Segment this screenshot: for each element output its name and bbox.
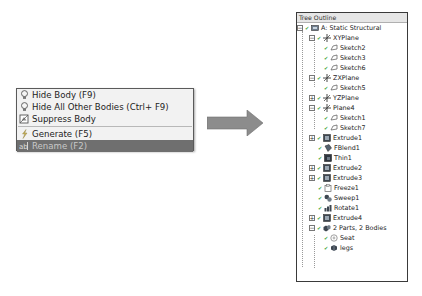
thin-icon — [324, 154, 332, 162]
tree-node-sketch2[interactable]: ✔ Sketch2 — [324, 43, 366, 53]
tree-node-label: Sketch2 — [340, 44, 366, 52]
suppress-body-icon — [19, 114, 29, 124]
tree-node-legs[interactable]: ✔ legs — [324, 243, 353, 253]
rotate-icon — [324, 204, 332, 212]
lightbulb-icon — [19, 90, 29, 100]
tree-node-label: XYPlane — [333, 34, 359, 42]
tree-node-label: Sketch7 — [340, 124, 366, 132]
menu-item-rename[interactable]: ab Rename (F2) — [17, 140, 193, 152]
check-icon: ✔ — [317, 135, 322, 141]
sketch-icon — [330, 44, 338, 52]
extrude-icon — [323, 164, 331, 172]
tree-node-label: FBlend1 — [334, 144, 360, 152]
menu-item-generate[interactable]: Generate (F5) — [17, 128, 193, 140]
tree-connector — [314, 235, 315, 268]
tree-node-seat[interactable]: ✔ Seat — [324, 233, 354, 243]
check-icon: ✔ — [318, 145, 323, 151]
check-icon: ✔ — [317, 95, 322, 101]
check-icon: ✔ — [305, 25, 310, 31]
tree-node-fblend1[interactable]: ✔ FBlend1 — [318, 143, 360, 153]
freeze-icon — [324, 184, 332, 192]
tree-node-zxplane[interactable]: − ✔ ZXPlane — [309, 73, 359, 83]
tree-node-sketch5[interactable]: ✔ Sketch5 — [324, 83, 366, 93]
tree-node-parts-bodies[interactable]: − ✔ 2 Parts, 2 Bodies — [309, 223, 387, 233]
model-icon — [311, 24, 319, 32]
tree-node-label: Plane4 — [333, 104, 355, 112]
tree-node-label: legs — [340, 244, 353, 252]
check-icon: ✔ — [324, 85, 329, 91]
check-icon: ✔ — [317, 175, 322, 181]
tree-node-label: Extrude3 — [333, 174, 362, 182]
expand-icon[interactable]: + — [309, 95, 315, 101]
expand-icon[interactable]: + — [309, 175, 315, 181]
tree-node-extrude1[interactable]: + ✔ Extrude1 — [309, 133, 362, 143]
tree-node-label: Seat — [340, 234, 354, 242]
extrude-icon — [323, 174, 331, 182]
body-icon — [330, 234, 338, 242]
tree-node-sketch7[interactable]: ✔ Sketch7 — [324, 123, 366, 133]
collapse-icon[interactable]: − — [309, 225, 315, 231]
tree-node-sketch6[interactable]: ✔ Sketch6 — [324, 63, 366, 73]
tree-node-extrude3[interactable]: + ✔ Extrude3 — [309, 173, 362, 183]
rename-icon: ab — [19, 141, 29, 151]
collapse-icon[interactable]: − — [309, 105, 315, 111]
tree-node-thin1[interactable]: ✔ Thin1 — [318, 153, 352, 163]
expand-icon[interactable]: + — [309, 215, 315, 221]
tree-outline-title: Tree Outline — [297, 13, 407, 23]
extrude-icon — [323, 214, 331, 222]
menu-item-suppress-body[interactable]: Suppress Body — [17, 113, 193, 125]
menu-separator — [18, 126, 192, 127]
menu-item-label: Hide Body (F9) — [32, 90, 96, 100]
plane-icon — [323, 74, 331, 82]
menu-item-hide-body[interactable]: Hide Body (F9) — [17, 89, 193, 101]
tree-connector — [302, 31, 303, 267]
check-icon: ✔ — [317, 35, 322, 41]
sketch-icon — [330, 84, 338, 92]
context-menu: Hide Body (F9) Hide All Other Bodies (Ct… — [16, 88, 194, 151]
plane-icon — [323, 34, 331, 42]
check-icon: ✔ — [318, 205, 323, 211]
check-icon: ✔ — [324, 245, 329, 251]
tree-node-label: Freeze1 — [334, 184, 359, 192]
tree-node-sketch3[interactable]: ✔ Sketch3 — [324, 53, 366, 63]
menu-item-label: Generate (F5) — [32, 129, 92, 139]
tree-node-label: Extrude1 — [333, 134, 362, 142]
extrude-icon — [323, 134, 331, 142]
check-icon: ✔ — [318, 155, 323, 161]
tree-node-xyplane[interactable]: − ✔ XYPlane — [309, 33, 359, 43]
check-icon: ✔ — [317, 75, 322, 81]
menu-item-label: Suppress Body — [32, 114, 96, 124]
menu-item-hide-all-other-bodies[interactable]: Hide All Other Bodies (Ctrl+ F9) — [17, 101, 193, 113]
tree-node-rotate1[interactable]: ✔ Rotate1 — [318, 203, 359, 213]
check-icon: ✔ — [324, 65, 329, 71]
plane-icon — [323, 94, 331, 102]
tree-node-label: Sketch6 — [340, 64, 366, 72]
tree-node-yzplane[interactable]: + ✔ YZPlane — [309, 93, 359, 103]
tree-node-sketch1[interactable]: ✔ Sketch1 — [324, 113, 366, 123]
tree-node-plane4[interactable]: − ✔ Plane4 — [309, 103, 355, 113]
menu-item-label: Hide All Other Bodies (Ctrl+ F9) — [32, 102, 169, 112]
sketch-icon — [330, 114, 338, 122]
tree-node-extrude2[interactable]: + ✔ Extrude2 — [309, 163, 362, 173]
tree-node-sweep1[interactable]: ✔ Sweep1 — [318, 193, 359, 203]
expand-icon[interactable]: + — [309, 165, 315, 171]
tree-node-label: Extrude2 — [333, 164, 362, 172]
tree-node-freeze1[interactable]: ✔ Freeze1 — [318, 183, 359, 193]
tree-node-static-structural[interactable]: − ✔ A: Static Structural — [297, 23, 381, 33]
tree-node-label: A: Static Structural — [321, 24, 381, 32]
tree-node-extrude4[interactable]: + ✔ Extrude4 — [309, 213, 362, 223]
tree-node-label: Sketch1 — [340, 114, 366, 122]
tree-node-label: Rotate1 — [334, 204, 359, 212]
tree-connector — [314, 40, 315, 73]
collapse-icon[interactable]: − — [297, 25, 303, 31]
tree-node-label: Sketch3 — [340, 54, 366, 62]
expand-icon[interactable]: + — [309, 135, 315, 141]
check-icon: ✔ — [317, 105, 322, 111]
collapse-icon[interactable]: − — [309, 35, 315, 41]
sketch-icon — [330, 54, 338, 62]
check-icon: ✔ — [317, 225, 322, 231]
check-icon: ✔ — [324, 55, 329, 61]
collapse-icon[interactable]: − — [309, 75, 315, 81]
blend-icon — [324, 144, 332, 152]
tree-node-label: Extrude4 — [333, 214, 362, 222]
